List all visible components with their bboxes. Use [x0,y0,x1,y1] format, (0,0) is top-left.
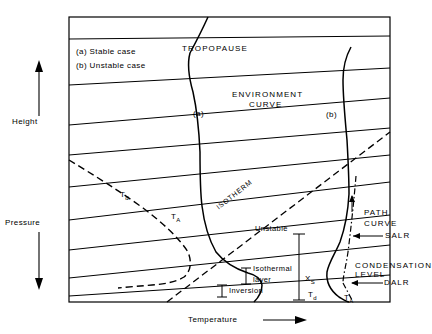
label-path-curve-line1: PATH [364,208,389,218]
legend-unstable-case: (b) Unstable case [76,61,146,71]
label-unstable: Unstable [255,224,288,233]
label-td-surface-sub: d [313,295,316,301]
label-salr: SALR [385,231,410,241]
path-curve-arrowhead [349,195,355,202]
label-case-b: (b) [326,110,337,120]
label-condensation-level-line2: LEVEL [355,270,385,280]
gridline-5 [69,155,390,187]
label-ta-sub: A [176,217,180,223]
gridline-1 [69,36,390,39]
axis-label-height: Height [12,117,38,127]
label-environment-curve-line2: CURVE [249,100,282,110]
axis-label-temperature: Temperature [188,315,237,325]
label-td-sub: d [125,195,128,201]
label-path-curve-line2: CURVE [364,219,397,229]
label-td-surface: Td [308,290,317,302]
salr-arrowhead [353,233,360,239]
label-xs-mixing-ratio: XS [305,274,315,286]
label-case-a: (a) [193,109,204,119]
pressure-arrowhead [35,278,43,290]
axis-label-pressure: Pressure [5,218,40,228]
height-arrowhead [35,60,43,72]
legend-stable-case: (a) Stable case [76,47,136,57]
gridline-4 [69,128,390,155]
gridline-3 [69,98,390,125]
label-isothermal-layer-line1: Isothermal [253,264,292,273]
gridline-7 [69,215,390,250]
label-ta-surface: TA [344,293,353,305]
label-ta-surface-sub: A [349,298,353,304]
label-tropopause: TROPOPAUSE [182,44,248,54]
label-xs-sub: S [311,279,315,285]
label-inversion: Inversion [229,286,263,295]
label-isothermal-layer-line2: layer [253,275,271,284]
gridline-8 [69,245,390,278]
dalr-arrowhead [351,280,358,286]
temperature-arrowhead [295,316,307,324]
label-environment-curve-line1: ENVIRONMENT [232,90,303,100]
environment-curve-b [327,47,351,302]
label-ta-environment: TA [171,212,180,224]
gridlines [69,36,390,296]
label-td-profile: Td [120,190,129,202]
label-dalr: DALR [384,278,410,288]
